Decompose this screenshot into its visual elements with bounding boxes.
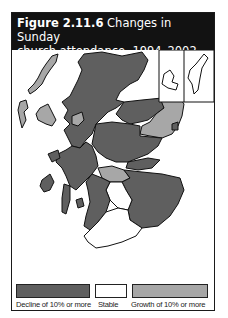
region-uist bbox=[18, 100, 28, 128]
region-skye bbox=[36, 104, 56, 126]
region-islay bbox=[40, 174, 54, 192]
legend-swatch-growth bbox=[132, 284, 208, 298]
region-arran bbox=[76, 198, 84, 208]
legend-label-growth: Growth of 10% or more bbox=[131, 300, 205, 309]
legend-label-decline: Decline of 10% or more bbox=[16, 300, 91, 309]
figure-header: Figure 2.11.6 Changes in Sunday church a… bbox=[12, 13, 214, 50]
region-aberdeen bbox=[172, 122, 178, 130]
figure-number: Figure 2.11.6 bbox=[17, 16, 103, 30]
figure-frame: Figure 2.11.6 Changes in Sunday church a… bbox=[11, 12, 215, 311]
legend: Decline of 10% or more Stable Growth of … bbox=[16, 284, 210, 310]
legend-label-stable: Stable bbox=[98, 300, 118, 309]
region-kintyre bbox=[62, 184, 70, 214]
legend-swatch-decline bbox=[16, 284, 90, 298]
legend-swatch-stable bbox=[95, 284, 127, 298]
region-western-isles bbox=[28, 54, 58, 94]
scotland-map bbox=[12, 50, 214, 282]
